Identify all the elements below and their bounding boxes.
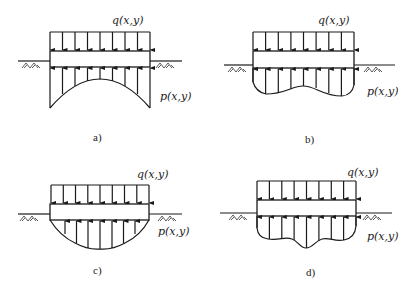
pressure-curve — [50, 79, 150, 108]
reaction-arrows-up — [257, 217, 356, 248]
foundation-beam — [253, 51, 354, 68]
panel-b: q(x,y) p(x,y) b) — [224, 14, 399, 146]
panel-caption: d) — [306, 266, 316, 279]
load-arrows-down — [257, 181, 356, 199]
soil-hatch-icon — [20, 216, 38, 221]
panel-c: q(x,y) p(x,y) c) — [18, 168, 190, 277]
foundation-beam — [257, 200, 356, 216]
foundation-pressure-diagram: q(x,y) p(x,y) a) — [0, 0, 403, 288]
reaction-label: p(x,y) — [367, 230, 399, 243]
panel-d: q(x,y) p(x,y) d) — [220, 166, 399, 279]
soil-hatch-icon — [156, 63, 174, 68]
load-arrows-down — [253, 32, 354, 50]
panel-caption: b) — [305, 133, 315, 146]
soil-hatch-icon — [363, 215, 381, 220]
reaction-arrows-up — [65, 221, 135, 249]
soil-hatch-icon — [228, 67, 246, 72]
reaction-arrows-up — [253, 69, 354, 96]
top-load-label: q(x,y) — [318, 14, 350, 27]
top-load-label: q(x,y) — [112, 14, 144, 27]
reaction-label: p(x,y) — [160, 90, 192, 103]
top-load-label: q(x,y) — [347, 166, 379, 179]
load-arrows-down — [51, 185, 149, 203]
panel-caption: a) — [93, 131, 102, 144]
panel-caption: c) — [93, 264, 102, 277]
top-load-label: q(x,y) — [137, 168, 169, 181]
load-arrows-down — [50, 32, 150, 50]
reaction-label: p(x,y) — [158, 225, 190, 238]
foundation-beam — [50, 204, 149, 220]
soil-hatch-icon — [229, 215, 247, 220]
reaction-label: p(x,y) — [367, 85, 399, 98]
soil-hatch-icon — [22, 63, 40, 68]
reaction-arrows-up — [50, 68, 150, 108]
panel-a: q(x,y) p(x,y) a) — [18, 14, 192, 144]
foundation-beam — [50, 51, 150, 67]
soil-hatch-icon — [158, 216, 176, 221]
soil-hatch-icon — [364, 67, 382, 72]
